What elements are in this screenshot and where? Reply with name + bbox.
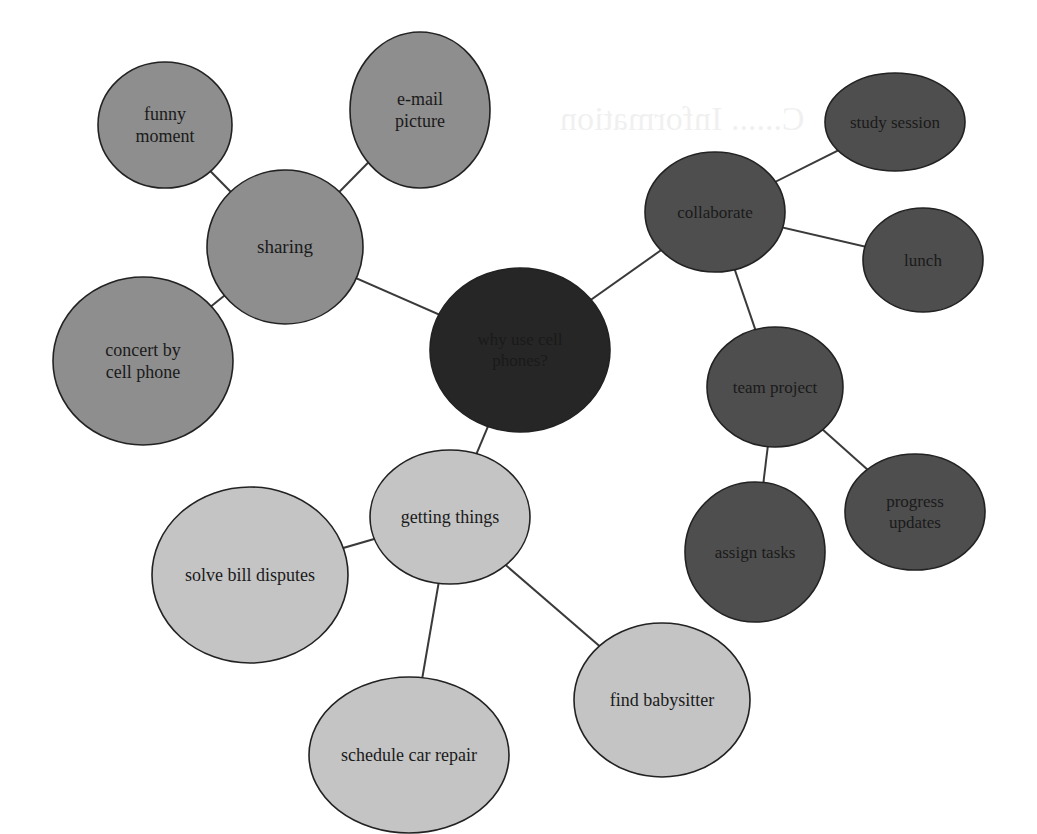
- node-collaborate: collaborate: [645, 152, 785, 272]
- node-assign-tasks: assign tasks: [685, 482, 825, 622]
- node-solve-bill-disputes: solve bill disputes: [152, 487, 348, 663]
- node-center: why use cellphones?: [430, 268, 610, 432]
- node-lunch: lunch: [863, 208, 983, 312]
- bubble-map-diagram: why use cellphones?sharingfunnymomente-m…: [0, 0, 1037, 834]
- node-label: phones?: [492, 351, 548, 370]
- node-sharing: sharing: [207, 170, 363, 324]
- node-label: updates: [889, 513, 941, 532]
- node-getting-things: getting things: [370, 450, 530, 584]
- node-label: find babysitter: [610, 690, 714, 710]
- node-label: picture: [395, 111, 445, 131]
- node-concert-by-cell-phone: concert bycell phone: [53, 277, 233, 445]
- node-label: moment: [136, 126, 195, 146]
- node-label: getting things: [401, 507, 500, 527]
- node-label: progress: [886, 492, 944, 511]
- node-label: e-mail: [397, 89, 443, 109]
- node-label: team project: [733, 378, 818, 397]
- node-find-babysitter: find babysitter: [574, 623, 750, 777]
- node-study-session: study session: [825, 73, 965, 171]
- node-label: sharing: [257, 236, 313, 257]
- node-funny-moment: funnymoment: [98, 62, 232, 188]
- node-label: collaborate: [677, 203, 753, 222]
- node-label: lunch: [904, 251, 942, 270]
- node-label: study session: [850, 113, 941, 132]
- node-label: why use cell: [478, 330, 563, 349]
- node-label: concert by: [105, 340, 180, 360]
- node-progress-updates: progressupdates: [845, 454, 985, 570]
- node-label: funny: [144, 104, 186, 124]
- node-schedule-car-repair: schedule car repair: [309, 677, 509, 833]
- node-label: cell phone: [106, 362, 180, 382]
- node-label: solve bill disputes: [185, 565, 315, 585]
- node-e-mail-picture: e-mailpicture: [350, 32, 490, 188]
- node-label: schedule car repair: [341, 745, 477, 765]
- diagram-nodes: why use cellphones?sharingfunnymomente-m…: [53, 32, 985, 833]
- node-team-project: team project: [707, 327, 843, 447]
- node-label: assign tasks: [715, 543, 796, 562]
